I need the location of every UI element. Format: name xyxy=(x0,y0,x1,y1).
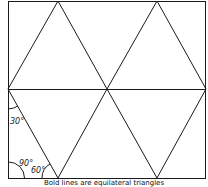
diagram-caption: Bold lines are equilateral triangles xyxy=(0,179,208,187)
angle-label-60: 60° xyxy=(31,166,45,175)
angle-label-30: 30° xyxy=(10,117,24,126)
top-triangle-edges xyxy=(8,1,206,89)
triangle-tessellation-diagram: 30° 90° 60° xyxy=(0,0,208,187)
bottom-triangle-edges xyxy=(8,89,206,178)
angle-arc-30 xyxy=(9,106,19,109)
